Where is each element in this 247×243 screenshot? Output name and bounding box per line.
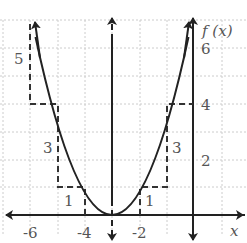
tick-4: 4 <box>201 96 211 114</box>
tick-neg6: -6 <box>23 224 38 242</box>
step-right-3: 3 <box>172 139 182 157</box>
parabola-graph: x f (x) -6 -4 -2 2 4 6 1 3 1 3 5 <box>0 0 247 243</box>
y-axis-label: f (x) <box>201 22 233 40</box>
tick-neg2: -2 <box>132 224 147 242</box>
step-right-1: 1 <box>145 192 155 210</box>
tick-2: 2 <box>201 152 211 170</box>
x-axis-label: x <box>230 222 239 240</box>
step-left-3: 3 <box>43 139 53 157</box>
tick-6: 6 <box>201 40 211 58</box>
step-left-5: 5 <box>14 50 24 68</box>
step-left-1: 1 <box>64 192 74 210</box>
tick-neg4: -4 <box>77 224 92 242</box>
